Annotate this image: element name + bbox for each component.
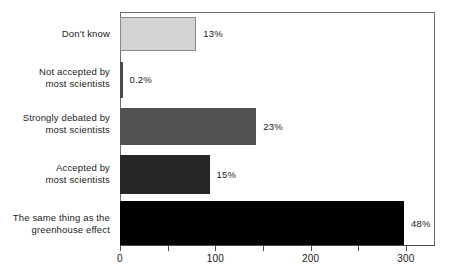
x-tick-label-300: 300: [397, 253, 414, 264]
bar-not-accepted: [120, 62, 123, 98]
bar-greenhouse-effect: [120, 201, 404, 245]
x-tick-50: [168, 246, 169, 251]
value-label-3: 15%: [217, 169, 237, 180]
bar-dont-know: [120, 17, 196, 51]
category-label-4: The same thing as the greenhouse effect: [0, 212, 110, 235]
bar-strongly-debated: [120, 108, 256, 145]
bar-chart: Don't know Not accepted by most scientis…: [0, 0, 451, 279]
value-label-4: 48%: [411, 218, 431, 229]
x-tick-200: [311, 246, 312, 251]
category-label-3: Accepted by most scientists: [0, 162, 110, 185]
value-label-2: 23%: [263, 121, 283, 132]
bar-accepted: [120, 155, 210, 194]
category-label-2: Strongly debated by most scientists: [0, 112, 110, 135]
value-label-0: 13%: [203, 28, 223, 39]
x-tick-100: [215, 246, 216, 251]
category-label-0: Don't know: [0, 28, 110, 40]
x-tick-label-0: 0: [117, 253, 123, 264]
x-tick-label-200: 200: [302, 253, 319, 264]
x-tick-300: [406, 246, 407, 251]
x-tick-250: [358, 246, 359, 251]
category-label-1: Not accepted by most scientists: [0, 66, 110, 89]
x-tick-150: [263, 246, 264, 251]
value-label-1: 0.2%: [130, 74, 152, 85]
x-tick-label-100: 100: [207, 253, 224, 264]
x-tick-0: [120, 246, 121, 251]
